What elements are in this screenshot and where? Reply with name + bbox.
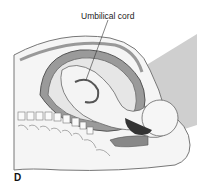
- birth-illustration: [0, 0, 201, 188]
- panel-letter: D: [14, 172, 21, 183]
- umbilical-cord-label: Umbilical cord: [81, 11, 134, 21]
